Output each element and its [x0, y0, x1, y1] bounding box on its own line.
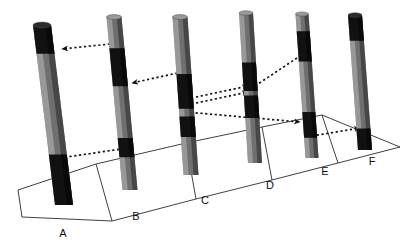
ground-plane-outline: [18, 115, 400, 221]
core-top-cap-C: [173, 15, 188, 20]
core-top-cap-D: [239, 11, 253, 15]
drill-core-A: [33, 22, 73, 205]
core-correlation-figure: ABCDEF: [0, 0, 416, 252]
core-top-cap-A: [33, 22, 51, 28]
core-top-cap-B: [107, 15, 122, 20]
core-label-C: C: [201, 194, 209, 206]
arrow-d-to-c-upper: [196, 86, 248, 97]
arrow-c-to-e-lower: [186, 112, 300, 122]
core-label-F: F: [369, 155, 376, 167]
core-top-cap-E: [296, 12, 309, 16]
core-label-E: E: [321, 165, 328, 177]
perspective-ground-plane: [18, 115, 400, 221]
arrow-c-to-b-upper: [132, 72, 182, 83]
core-label-A: A: [59, 227, 67, 239]
core-top-cap-F: [348, 13, 362, 17]
correlation-diagram-canvas: ABCDEF: [0, 0, 416, 252]
arrow-e-to-d-upper: [196, 92, 248, 103]
core-label-B: B: [132, 210, 139, 222]
core-label-D: D: [266, 179, 274, 191]
arrow-b-to-a-upper: [62, 44, 110, 49]
arrow-a-to-b-lower: [60, 148, 128, 158]
